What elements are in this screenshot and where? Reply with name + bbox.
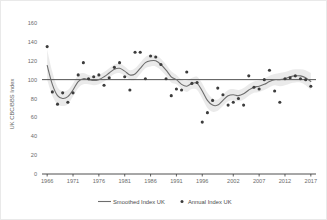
data-point — [61, 91, 64, 94]
data-point — [268, 69, 271, 72]
data-point — [154, 55, 157, 58]
data-point — [139, 51, 142, 54]
data-point — [206, 111, 209, 114]
data-point — [118, 61, 121, 64]
x-tick-label: 1996 — [196, 178, 208, 184]
data-point — [227, 104, 230, 107]
data-point — [149, 54, 152, 57]
chart-legend: Smoothed Index UK Annual Index UK — [98, 199, 232, 205]
legend-dot-swatch — [181, 200, 184, 203]
y-tick-label: 80 — [31, 96, 37, 102]
data-point — [46, 45, 49, 48]
data-point — [242, 104, 245, 107]
data-point — [221, 93, 224, 96]
x-tick-label: 2002 — [227, 178, 239, 184]
data-point — [128, 88, 131, 91]
x-tick-label: 2017 — [305, 178, 317, 184]
data-point — [216, 87, 219, 90]
data-point — [273, 89, 276, 92]
x-tick-label: 1966 — [41, 178, 53, 184]
data-point — [123, 75, 126, 78]
data-point — [283, 77, 286, 80]
data-point — [51, 90, 54, 93]
y-tick-label: 140 — [28, 39, 37, 45]
data-point — [304, 78, 307, 81]
data-point — [237, 97, 240, 100]
data-point — [196, 81, 199, 84]
x-tick-label: 2012 — [279, 178, 291, 184]
data-point — [252, 86, 255, 89]
chart-figure: 020406080100120140160 196619711976198119… — [0, 0, 327, 220]
x-tick-label: 1981 — [118, 178, 130, 184]
data-point — [77, 73, 80, 76]
data-point — [309, 85, 312, 88]
data-point — [190, 82, 193, 85]
data-point — [134, 51, 137, 54]
data-point — [108, 76, 111, 79]
y-tick-label: 40 — [31, 133, 37, 139]
data-point — [87, 77, 90, 80]
data-point — [211, 99, 214, 102]
x-tick-label: 2007 — [253, 178, 265, 184]
y-tick-label: 60 — [31, 114, 37, 120]
y-tick-label: 120 — [28, 58, 37, 64]
data-point — [66, 101, 69, 104]
chart-canvas: 020406080100120140160 196619711976198119… — [1, 1, 327, 220]
data-point — [165, 77, 168, 80]
data-point — [159, 63, 162, 66]
x-tick-label: 1976 — [93, 178, 105, 184]
data-point — [180, 88, 183, 91]
data-point — [170, 94, 173, 97]
data-point — [113, 66, 116, 69]
data-point — [294, 74, 297, 77]
data-point — [92, 75, 95, 78]
x-tick-label: 1991 — [170, 178, 182, 184]
data-point — [144, 77, 147, 80]
data-point — [201, 121, 204, 124]
legend-label-annual: Annual Index UK — [188, 199, 232, 205]
data-point — [258, 88, 261, 91]
data-point — [278, 101, 281, 104]
data-point — [247, 74, 250, 77]
data-point — [71, 91, 74, 94]
y-axis-title: UK CBC/BBS Index — [9, 78, 15, 129]
data-point — [56, 103, 59, 106]
data-point — [185, 71, 188, 74]
data-point — [82, 61, 85, 64]
x-tick-label: 1971 — [67, 178, 79, 184]
y-tick-label: 20 — [31, 152, 37, 158]
data-point — [97, 73, 100, 76]
y-axis: 020406080100120140160 — [28, 20, 37, 177]
data-point — [299, 77, 302, 80]
legend-label-smoothed: Smoothed Index UK — [113, 199, 165, 205]
y-tick-label: 0 — [34, 171, 37, 177]
x-axis: 1966197119761981198619911996200220072012… — [41, 174, 317, 184]
y-tick-label: 160 — [28, 20, 37, 26]
data-point — [289, 76, 292, 79]
data-point — [175, 88, 178, 91]
x-tick-label: 1986 — [144, 178, 156, 184]
y-tick-label: 100 — [28, 77, 37, 83]
data-point — [263, 78, 266, 81]
data-point — [232, 101, 235, 104]
data-point — [102, 84, 105, 87]
